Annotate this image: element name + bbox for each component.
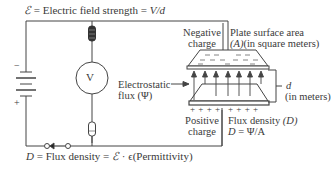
switch-icon bbox=[45, 143, 71, 149]
battery-icon bbox=[16, 72, 36, 96]
voltmeter-label: V bbox=[86, 72, 94, 83]
field-symbol: ℰ bbox=[24, 4, 31, 16]
area-unit: (in square meters) bbox=[243, 38, 319, 49]
flux-density-line1: Flux density (D) bbox=[228, 115, 297, 126]
electric-field-formula: ℰ = Electric field strength = V/d bbox=[24, 5, 165, 16]
flux-density-expr: = Ψ/A bbox=[236, 126, 265, 137]
field-symbol-2: ℰ bbox=[112, 150, 119, 162]
D-symbol: D bbox=[26, 150, 34, 162]
flux-line1: Electrostatic bbox=[118, 79, 170, 90]
flux-density-text: Flux density bbox=[228, 115, 283, 126]
flux-density-line2: D = Ψ/A bbox=[228, 126, 297, 137]
flux-pointer-arrow bbox=[171, 82, 189, 87]
plus-signs-right: + + + + bbox=[228, 104, 259, 115]
distance-unit: (in meters) bbox=[285, 91, 331, 102]
negative-charge-line2: charge bbox=[182, 38, 222, 49]
formula-text: = Flux density = bbox=[34, 150, 112, 162]
flux-density-symbol: (D) bbox=[283, 115, 298, 126]
positive-charge-line1: Positive bbox=[183, 115, 221, 126]
plate-area-line1: Plate surface area bbox=[230, 27, 319, 38]
positive-charge-line2: charge bbox=[183, 126, 221, 137]
field-formula-expr: V/d bbox=[150, 4, 165, 16]
positive-plate bbox=[189, 84, 269, 105]
negative-plate bbox=[187, 50, 269, 69]
battery-minus-sign: − bbox=[14, 60, 20, 71]
plus-signs-left: + + + + bbox=[190, 104, 221, 115]
flux-line2: flux (Ψ) bbox=[118, 90, 170, 101]
flux-arrows bbox=[192, 71, 264, 100]
probe-connector-bottom-icon bbox=[89, 122, 96, 143]
negative-charge-line1: Negative bbox=[182, 27, 222, 38]
positive-charge-label: Positive charge bbox=[183, 115, 221, 137]
distance-symbol: d bbox=[285, 80, 331, 91]
plate-area-label: Plate surface area (A)(in square meters) bbox=[230, 27, 319, 49]
flux-density-label: Flux density (D) D = Ψ/A bbox=[228, 115, 297, 137]
battery-plus-sign: + bbox=[14, 97, 20, 108]
electrostatic-flux-label: Electrostatic flux (Ψ) bbox=[118, 79, 170, 101]
flux-density-formula: D = Flux density = ℰ · ϵ(Permittivity) bbox=[26, 151, 193, 162]
flux-density-D: D bbox=[228, 126, 236, 137]
permittivity-text: · ϵ(Permittivity) bbox=[119, 150, 193, 162]
probe-connector-top-icon bbox=[89, 26, 96, 41]
area-symbol: (A) bbox=[230, 38, 243, 49]
negative-charge-label: Negative charge bbox=[182, 27, 222, 49]
distance-label: d (in meters) bbox=[285, 80, 331, 102]
plate-area-line2: (A)(in square meters) bbox=[230, 38, 319, 49]
distance-bracket bbox=[268, 70, 282, 102]
field-formula-text: = Electric field strength = bbox=[31, 4, 150, 16]
